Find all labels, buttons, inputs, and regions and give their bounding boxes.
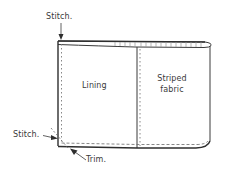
trim-arrow — [70, 149, 86, 161]
striped-fabric-label-line2: fabric — [156, 85, 188, 95]
diagram-drawing — [0, 0, 226, 172]
stitch-bottom-label: Stitch. — [13, 130, 39, 140]
stitch-top-arrow — [59, 23, 64, 40]
bottom-stitch-line — [62, 141, 209, 145]
stitch-top-label: Stitch. — [46, 12, 72, 22]
trim-label: Trim. — [86, 155, 106, 165]
stitch-bottom-arrow — [43, 135, 58, 140]
striped-fabric-label-line1: Striped — [156, 74, 188, 84]
lining-label: Lining — [82, 81, 107, 91]
sewing-diagram: Stitch. Stitch. Trim. Lining Striped fab… — [0, 0, 226, 172]
top-band — [58, 41, 211, 48]
